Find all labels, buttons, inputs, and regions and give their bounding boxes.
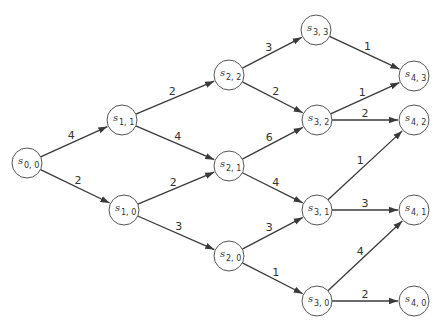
edge-weight-label: 1 <box>359 86 366 99</box>
node-subscript: 0, 0 <box>24 161 39 170</box>
edge-weight-label: 4 <box>272 176 279 189</box>
node-label: s <box>220 67 225 78</box>
node-s20: s2, 0 <box>214 241 244 271</box>
node-label: s <box>220 158 225 169</box>
edge-weight-label: 6 <box>266 131 273 144</box>
edge-weight-label: 1 <box>272 266 279 279</box>
node-s33: s3, 3 <box>301 15 331 45</box>
node-subscript: 2, 0 <box>226 254 241 263</box>
edge-weight-label: 2 <box>362 288 369 301</box>
node-subscript: 3, 3 <box>313 28 328 37</box>
node-label: s <box>405 293 410 304</box>
node-s00: s0, 0 <box>12 148 42 178</box>
edge-weight-label: 2 <box>169 85 176 98</box>
node-subscript: 3, 0 <box>314 299 329 308</box>
edge-weight-label: 4 <box>68 129 75 142</box>
node-subscript: 1, 0 <box>121 208 136 217</box>
edge-weight-label: 2 <box>362 107 369 120</box>
edge-weight-label: 1 <box>357 154 364 167</box>
edge-weight-label: 2 <box>272 85 279 98</box>
graph-diagram: 4224233264311121342 s0, 0s1, 1s1, 0s2, 2… <box>0 0 437 324</box>
node-label: s <box>220 248 225 259</box>
node-s10: s1, 0 <box>109 195 139 225</box>
edge-weight-label: 3 <box>362 197 369 210</box>
node-label: s <box>405 112 410 123</box>
node-label: s <box>405 68 410 79</box>
node-label: s <box>308 202 313 213</box>
node-s21: s2, 1 <box>214 151 244 181</box>
node-s43: s4, 3 <box>399 61 429 91</box>
node-subscript: 4, 1 <box>411 208 426 217</box>
edge-weight-label: 3 <box>265 41 272 54</box>
nodes-layer: s0, 0s1, 1s1, 0s2, 2s2, 1s2, 0s3, 3s3, 2… <box>12 15 429 316</box>
node-subscript: 4, 3 <box>411 74 426 83</box>
node-label: s <box>18 155 23 166</box>
node-subscript: 3, 1 <box>314 208 329 217</box>
node-label: s <box>115 202 120 213</box>
edge-weight-label: 3 <box>266 221 273 234</box>
node-subscript: 1, 1 <box>119 118 134 127</box>
edge-weight-label: 2 <box>170 176 177 189</box>
node-s22: s2, 2 <box>214 60 244 90</box>
edge-s30-s41 <box>328 221 402 291</box>
edge-weight-label: 4 <box>174 130 181 143</box>
node-label: s <box>113 112 118 123</box>
node-subscript: 2, 1 <box>226 164 241 173</box>
node-subscript: 2, 2 <box>226 73 241 82</box>
node-label: s <box>308 293 313 304</box>
edge-weight-label: 3 <box>175 220 182 233</box>
node-s32: s3, 2 <box>302 105 332 135</box>
node-subscript: 4, 0 <box>411 299 426 308</box>
node-label: s <box>307 22 312 33</box>
node-s31: s3, 1 <box>302 195 332 225</box>
node-s40: s4, 0 <box>399 286 429 316</box>
node-subscript: 3, 2 <box>314 118 329 127</box>
node-s11: s1, 1 <box>107 105 137 135</box>
edge-weight-label: 4 <box>357 245 364 258</box>
edge-s31-s42 <box>328 131 402 200</box>
node-s42: s4, 2 <box>399 105 429 135</box>
edge-weight-label: 1 <box>364 40 371 53</box>
node-s41: s4, 1 <box>399 195 429 225</box>
node-label: s <box>405 202 410 213</box>
edge-weight-label: 2 <box>75 174 82 187</box>
node-s30: s3, 0 <box>302 286 332 316</box>
node-subscript: 4, 2 <box>411 118 426 127</box>
node-label: s <box>308 112 313 123</box>
